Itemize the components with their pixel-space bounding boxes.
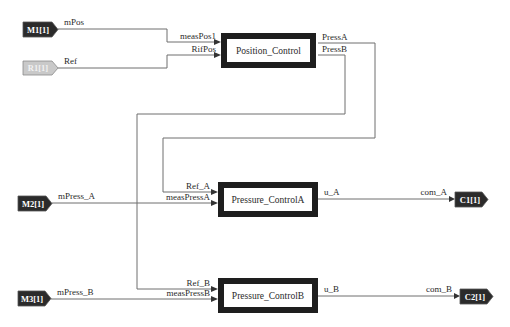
block-title: Position_Control [236,46,301,56]
input-tag-m1[interactable]: M1[1] [23,22,58,37]
arrow-icon [449,196,455,202]
block-pressure-control-a[interactable]: Pressure_ControlA [221,185,315,214]
wire-pressb[interactable] [137,55,345,289]
port-label-measpressb: measPressB [167,288,211,298]
port-label-ref-a: Ref_A [186,181,210,191]
tag-label: M1[1] [27,25,49,35]
block-title: Pressure_ControlA [232,195,305,205]
signal-label-mpos: mPos [64,17,85,27]
input-tag-r1[interactable]: R1[1] [23,61,58,75]
port-label-rifpos: RifPos [191,44,216,54]
input-tag-m3[interactable]: M3[1] [18,291,51,306]
port-label-u-b: u_B [324,284,339,294]
block-title: Pressure_ControlB [232,291,304,301]
port-label-measpos1: measPos1 [180,31,216,41]
input-tag-m2[interactable]: M2[1] [18,196,52,211]
signal-label-mpress-a: mPress_A [58,191,96,201]
tag-label: M2[1] [22,199,44,209]
port-label-pressa: PressA [322,32,348,42]
block-pressure-control-b[interactable]: Pressure_ControlB [221,281,315,310]
block-diagram: M1[1] R1[1] M2[1] M3[1] C1[1] C2[1] Posi… [0,0,510,327]
port-label-u-a: u_A [324,187,340,197]
signal-label-ref: Ref [64,56,77,66]
port-label-measpressa: measPressA [166,192,210,202]
signal-label-com-a: com_A [421,187,448,197]
wire-ref[interactable] [58,55,219,68]
output-tag-c1[interactable]: C1[1] [455,192,488,207]
tag-label: M3[1] [21,294,43,304]
port-label-pressb: PressB [322,44,347,54]
tag-label: R1[1] [28,63,48,73]
arrow-icon [454,293,460,299]
port-label-ref-b: Ref_B [187,278,211,288]
signal-label-mpress-b: mPress_B [57,287,94,297]
tag-label: C2[1] [465,292,485,302]
arrow-icon [211,189,218,195]
tag-label: C1[1] [460,195,480,205]
arrow-icon [211,296,218,302]
signal-label-com-b: com_B [426,284,452,294]
arrow-icon [211,286,218,292]
arrow-icon [211,200,218,206]
block-position-control[interactable]: Position_Control [224,36,313,65]
output-tag-c2[interactable]: C2[1] [460,289,493,304]
